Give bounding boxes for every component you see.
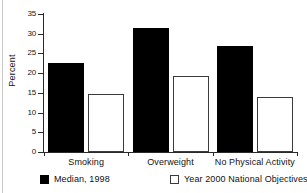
x-axis-tick — [297, 152, 298, 156]
legend-item: Median, 1998 — [40, 174, 110, 184]
legend-label: Year 2000 National Objectives — [184, 174, 307, 184]
bar-year-2000-objective — [257, 97, 293, 152]
x-axis-tick — [44, 152, 45, 156]
legend-label: Median, 1998 — [54, 174, 110, 184]
x-axis-tick — [128, 152, 129, 156]
y-axis-tick-label-slot: 35 — [0, 10, 36, 18]
legend-swatch-filled — [40, 175, 49, 184]
bar-chart-figure: Percent 05101520253035 SmokingOverweight… — [0, 0, 307, 193]
bar-year-2000-objective — [88, 94, 124, 152]
y-axis-tick-label-slot: 15 — [0, 89, 36, 97]
legend-item: Year 2000 National Objectives — [170, 174, 307, 184]
y-axis-tick-label: 30 — [2, 30, 36, 38]
bar-median-1998 — [217, 46, 253, 152]
y-axis-tick-label-slot: 20 — [0, 69, 36, 77]
legend-swatch-hollow — [170, 175, 179, 184]
chart-legend: Median, 1998Year 2000 National Objective… — [0, 174, 307, 188]
y-axis-tick-label-slot: 10 — [0, 109, 36, 117]
y-axis-tick-label: 10 — [2, 109, 36, 117]
bar-median-1998 — [48, 63, 84, 153]
bar-median-1998 — [133, 28, 169, 152]
bar-year-2000-objective — [173, 76, 209, 152]
y-axis-tick-label: 25 — [2, 49, 36, 57]
y-axis-tick-label: 0 — [2, 148, 36, 156]
y-axis-tick-label: 20 — [2, 69, 36, 77]
y-axis-tick-label: 15 — [2, 89, 36, 97]
x-axis-line — [43, 152, 297, 153]
x-axis-tick — [213, 152, 214, 156]
y-axis-tick-label: 35 — [2, 10, 36, 18]
y-axis-tick-label-slot: 5 — [0, 128, 36, 136]
x-axis-category-label: No Physical Activity — [185, 157, 307, 167]
y-axis-tick-label-slot: 0 — [0, 148, 36, 156]
plot-area — [44, 14, 297, 152]
y-axis-tick-label: 5 — [2, 128, 36, 136]
y-axis-tick-label-slot: 30 — [0, 30, 36, 38]
y-axis-tick-label-slot: 25 — [0, 49, 36, 57]
